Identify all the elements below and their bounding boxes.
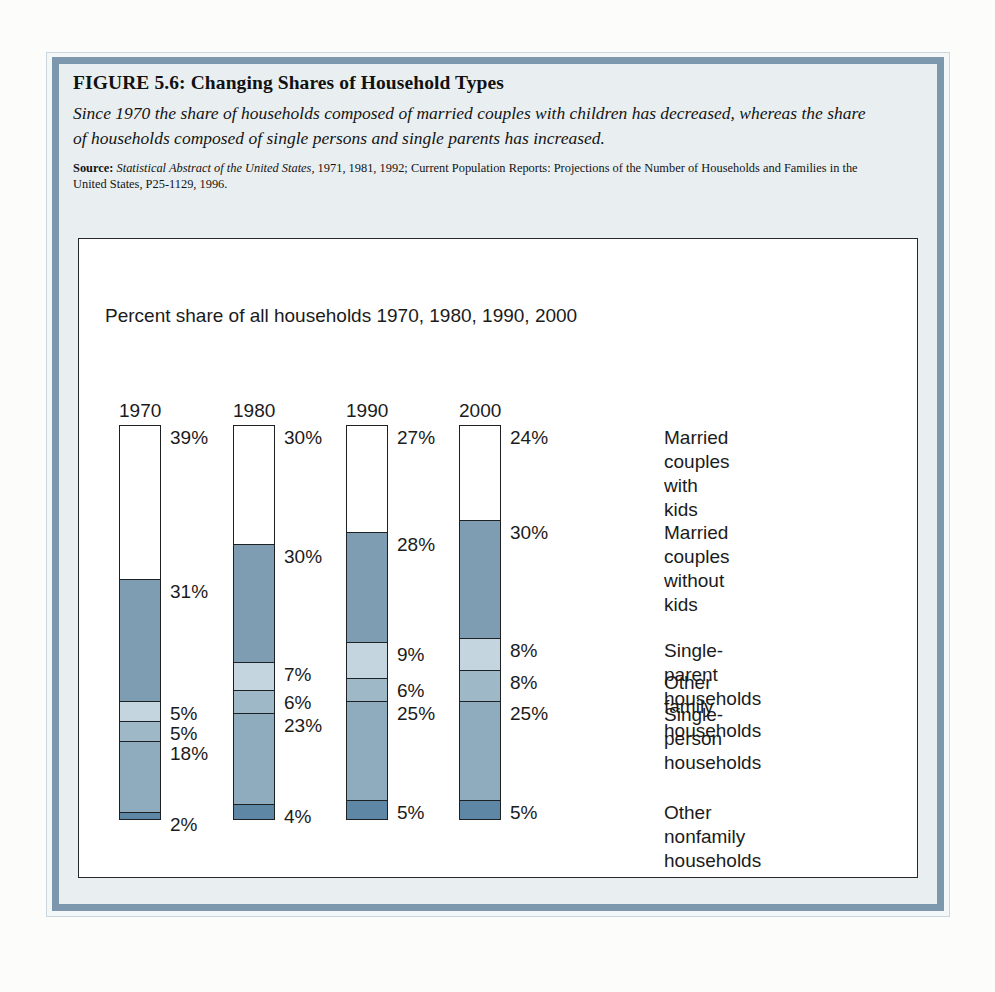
bar-segment: 4% (233, 804, 275, 820)
bar-year-label: 1990 (346, 400, 388, 422)
bar-segment-value: 6% (284, 692, 311, 714)
figure-source: Source: Statistical Abstract of the Unit… (73, 161, 885, 192)
bar-segment-value: 30% (510, 522, 548, 544)
bar-segment: 23% (233, 713, 275, 804)
page: FIGURE 5.6: Changing Shares of Household… (0, 0, 995, 992)
legend-item-label: Married couples with kids (664, 426, 729, 522)
figure-subtitle: Since 1970 the share of households compo… (73, 101, 873, 151)
bar-segment: 9% (346, 642, 388, 678)
bar-segment-value: 28% (397, 534, 435, 556)
bar-segment-value: 31% (170, 581, 208, 603)
bar-year-label: 1980 (233, 400, 275, 422)
bar-segment-value: 25% (510, 703, 548, 725)
legend-item-label: Single-person households (664, 703, 761, 775)
bar-segment-value: 7% (284, 664, 311, 686)
bar-segment: 8% (459, 670, 501, 702)
bar-segment-value: 8% (510, 640, 537, 662)
bar-segment: 7% (233, 662, 275, 690)
bar-segment-value: 30% (284, 427, 322, 449)
bar-stack: 24%30%8%8%25%5% (459, 425, 501, 820)
bar-segment: 30% (233, 544, 275, 663)
legend-item-label: Married couples without kids (664, 521, 729, 617)
bar-segment-value: 24% (510, 427, 548, 449)
bar-segment: 25% (459, 701, 501, 800)
bar-segment-value: 5% (170, 703, 197, 725)
bar-segment-value: 9% (397, 644, 424, 666)
bar-segment-value: 25% (397, 703, 435, 725)
bar-segment-value: 4% (284, 806, 311, 828)
bar-segment-value: 23% (284, 715, 322, 737)
bar-segment: 28% (346, 532, 388, 643)
bar-segment-value: 18% (170, 743, 208, 765)
bar-segment-value: 5% (170, 723, 197, 745)
bar-segment: 2% (119, 812, 161, 820)
bar-segment-value: 6% (397, 680, 424, 702)
bar-segment: 8% (459, 638, 501, 670)
bar-segment-value: 27% (397, 427, 435, 449)
legend-item-label: Other nonfamily households (664, 801, 761, 873)
bar-segment: 6% (346, 678, 388, 702)
bar-segment: 30% (459, 520, 501, 639)
figure-title: FIGURE 5.6: Changing Shares of Household… (73, 72, 933, 94)
bar-year-label: 2000 (459, 400, 501, 422)
chart-container: Percent share of all households 1970, 19… (78, 238, 918, 878)
figure-header: FIGURE 5.6: Changing Shares of Household… (73, 72, 933, 192)
bar-segment-value: 30% (284, 546, 322, 568)
bar-year-label: 1970 (119, 400, 161, 422)
bar-segment: 5% (459, 800, 501, 820)
source-label: Source: (73, 161, 113, 175)
bar-segment-value: 5% (510, 802, 537, 824)
bar-segment: 5% (346, 800, 388, 820)
bar-segment-value: 39% (170, 427, 208, 449)
bar-segment: 31% (119, 579, 161, 701)
bar-segment: 39% (119, 425, 161, 579)
bar-segment: 5% (119, 701, 161, 721)
bar-segment: 27% (346, 425, 388, 532)
bar-segment: 5% (119, 721, 161, 741)
source-italic: Statistical Abstract of the United State… (117, 161, 315, 175)
bar-stack: 39%31%5%5%18%2% (119, 425, 161, 820)
bar-segment: 24% (459, 425, 501, 520)
bar-segment: 18% (119, 741, 161, 812)
bar-segment: 30% (233, 425, 275, 544)
bar-segment-value: 2% (170, 814, 197, 836)
chart-legend: 24%Married couples with kids30%Married c… (664, 239, 914, 877)
bar-segment-value: 8% (510, 672, 537, 694)
bar-segment: 25% (346, 701, 388, 800)
bar-segment: 6% (233, 690, 275, 714)
bar-stack: 30%30%7%6%23%4% (233, 425, 275, 820)
bar-stack: 27%28%9%6%25%5% (346, 425, 388, 820)
bar-segment-value: 5% (397, 802, 424, 824)
